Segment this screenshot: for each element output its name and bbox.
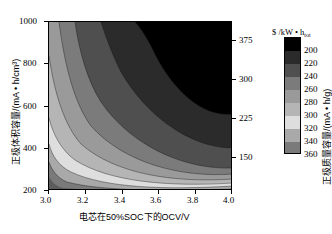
ytick-left-1000 <box>44 21 48 22</box>
ytick-right-300 <box>232 79 236 80</box>
ytick-right-150 <box>232 157 236 158</box>
chart-figure: 1000 800 600 400 200 375 300 225 150 3.0… <box>0 0 332 234</box>
ytick-left-label-200: 200 <box>23 186 37 195</box>
colorbar-label-220: 220 <box>304 59 318 68</box>
colorbar-label-360: 360 <box>304 150 318 159</box>
colorbar-label-200: 200 <box>304 46 318 55</box>
ytick-left-label-1000: 1000 <box>19 17 37 26</box>
ytick-right-label-225: 225 <box>239 114 253 123</box>
ytick-left-400 <box>44 148 48 149</box>
colorbar-band-2 <box>285 64 300 77</box>
colorbar-band-4 <box>285 90 300 103</box>
colorbar <box>284 37 301 154</box>
colorbar-title: $ /kW • htot <box>272 27 311 37</box>
colorbar-label-340: 340 <box>304 137 318 146</box>
xtick-3p4 <box>122 190 123 194</box>
xtick-3p2 <box>85 190 86 194</box>
ytick-left-label-600: 600 <box>23 102 37 111</box>
xtick-3p6 <box>158 190 159 194</box>
ytick-right-label-150: 150 <box>239 153 253 162</box>
ytick-right-label-375: 375 <box>239 36 253 45</box>
colorbar-label-300: 300 <box>304 111 318 120</box>
y-axis-title-right: 正极质量容量/(mA • h/g) <box>322 89 332 185</box>
xtick-label-3p6: 3.6 <box>150 196 161 205</box>
contour-plot-area <box>48 21 232 190</box>
ytick-left-600 <box>44 106 48 107</box>
ytick-right-label-300: 300 <box>239 75 253 84</box>
colorbar-title-subscript: tot <box>304 32 310 38</box>
xtick-label-4p0: 4.0 <box>223 196 234 205</box>
xtick-3p8 <box>195 190 196 194</box>
colorbar-band-8 <box>285 142 300 154</box>
y-axis-title-left: 正极体积容量/(mA • h/cm³) <box>11 59 21 165</box>
xtick-label-3p2: 3.2 <box>77 196 88 205</box>
xtick-label-3p8: 3.8 <box>187 196 198 205</box>
colorbar-band-6 <box>285 116 300 129</box>
colorbar-band-5 <box>285 103 300 116</box>
xtick-3p0 <box>48 190 49 194</box>
colorbar-label-260: 260 <box>304 85 318 94</box>
ytick-right-225 <box>232 118 236 119</box>
ytick-left-label-400: 400 <box>23 144 37 153</box>
colorbar-label-280: 280 <box>304 98 318 107</box>
x-axis-title: 电芯在50%SOC下的OCV/V <box>79 212 190 222</box>
colorbar-label-240: 240 <box>304 72 318 81</box>
contour-bands <box>49 22 232 190</box>
colorbar-label-320: 320 <box>304 124 318 133</box>
colorbar-band-3 <box>285 77 300 90</box>
xtick-label-3p0: 3.0 <box>40 196 51 205</box>
ytick-right-375 <box>232 40 236 41</box>
xtick-4p0 <box>231 190 232 194</box>
ytick-left-800 <box>44 63 48 64</box>
colorbar-band-0 <box>285 38 300 51</box>
xtick-label-3p4: 3.4 <box>114 196 125 205</box>
ytick-left-label-800: 800 <box>23 59 37 68</box>
colorbar-band-1 <box>285 51 300 64</box>
colorbar-band-7 <box>285 129 300 142</box>
colorbar-title-text: $ /kW • h <box>272 27 304 37</box>
